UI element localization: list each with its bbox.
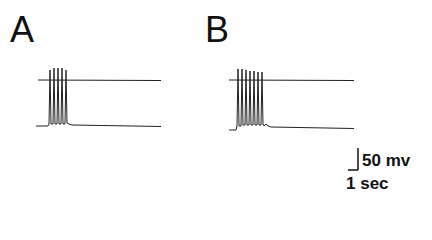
reference-line-a — [38, 80, 161, 81]
reference-line-b — [229, 80, 354, 81]
trace-b — [229, 69, 354, 130]
scale-voltage-label: 50 mv — [362, 152, 410, 169]
scale-time-label: 1 sec — [346, 175, 389, 192]
trace-a — [36, 68, 161, 127]
